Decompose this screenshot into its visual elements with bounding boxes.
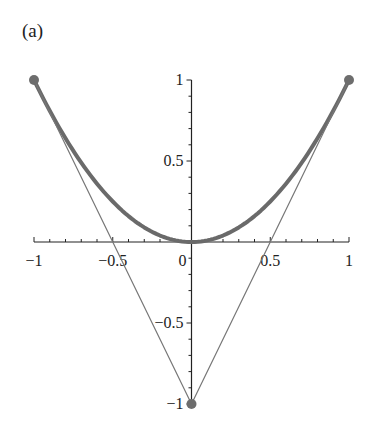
y-tick-label: −1 [166, 395, 183, 412]
x-tick-label: 1 [345, 252, 353, 269]
x-tick-label: 0 [179, 252, 187, 269]
x-tick-label: −1 [25, 252, 42, 269]
control-point [187, 399, 197, 409]
control-point [344, 75, 354, 85]
x-tick-label: 0.5 [260, 252, 280, 269]
y-tick-label: 0.5 [164, 152, 184, 169]
y-tick-label: −0.5 [154, 314, 183, 331]
x-tick-label: −0.5 [98, 252, 127, 269]
bezier-chart: −1−0.500.5110.5−0.5−1 [0, 0, 380, 444]
y-tick-label: 1 [176, 71, 184, 88]
control-point [29, 75, 39, 85]
